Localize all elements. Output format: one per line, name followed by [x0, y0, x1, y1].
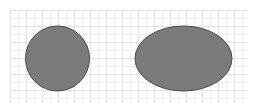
circle-shape[interactable]	[26, 26, 90, 91]
diagram-canvas	[0, 0, 261, 111]
ellipse-shape[interactable]	[135, 26, 232, 91]
